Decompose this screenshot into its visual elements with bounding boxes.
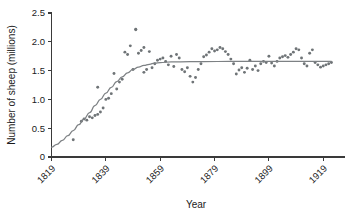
data-point <box>99 111 102 114</box>
data-point <box>167 63 170 66</box>
data-point <box>148 50 151 53</box>
x-tick-label: 1899 <box>252 163 275 186</box>
data-point <box>200 62 203 65</box>
y-axis-title: Number of sheep (millions) <box>6 25 17 145</box>
data-point <box>259 62 262 65</box>
data-point <box>213 50 216 53</box>
data-point <box>284 54 287 57</box>
data-point <box>170 55 173 58</box>
scatter-points <box>72 28 333 141</box>
data-point <box>229 58 232 61</box>
data-point <box>142 46 145 49</box>
chart-canvas: 00.51.01.52.02.5 18191839185918791899191… <box>0 0 353 218</box>
data-point <box>151 66 154 69</box>
y-tick-label: 2.0 <box>32 36 45 47</box>
data-point <box>140 49 143 52</box>
x-axis-title: Year <box>186 199 207 210</box>
data-point <box>219 46 222 49</box>
data-point <box>246 67 249 70</box>
data-point <box>205 54 208 57</box>
data-point <box>186 66 189 69</box>
data-point <box>102 107 105 110</box>
data-point <box>243 71 246 74</box>
data-point <box>278 56 281 59</box>
data-point <box>113 72 116 75</box>
data-point <box>96 113 99 116</box>
data-point <box>311 48 314 51</box>
data-point <box>126 53 129 56</box>
data-point <box>191 81 194 84</box>
data-point <box>270 62 273 65</box>
data-point <box>72 138 75 141</box>
y-tick-label: 1.5 <box>32 65 45 76</box>
data-point <box>115 88 118 91</box>
data-point <box>216 48 219 51</box>
axes <box>52 13 346 157</box>
data-point <box>240 66 243 69</box>
x-tick-label: 1879 <box>198 163 221 186</box>
y-tick-label: 1.0 <box>32 94 45 105</box>
data-point <box>175 53 178 56</box>
data-point <box>110 92 113 95</box>
data-point <box>235 73 238 76</box>
x-tick-label: 1859 <box>143 163 166 186</box>
data-point <box>303 62 306 65</box>
data-point <box>251 68 254 71</box>
data-point <box>194 76 197 79</box>
data-point <box>238 69 241 72</box>
data-point <box>267 55 270 58</box>
data-point <box>308 52 311 55</box>
data-point <box>208 51 211 54</box>
data-point <box>137 52 140 55</box>
data-point <box>202 55 205 58</box>
data-point <box>327 62 330 65</box>
data-point <box>325 63 328 66</box>
data-point <box>232 62 235 65</box>
data-point <box>289 53 292 56</box>
data-point <box>88 115 91 118</box>
data-point <box>286 56 289 59</box>
data-point <box>85 119 88 122</box>
data-point <box>224 50 227 53</box>
data-point <box>172 65 175 68</box>
data-point <box>189 75 192 78</box>
data-point <box>156 59 159 62</box>
data-point <box>180 68 183 71</box>
data-point <box>107 97 110 100</box>
y-tick-label: 0 <box>40 151 45 162</box>
data-point <box>91 116 94 119</box>
data-point <box>281 55 284 58</box>
x-axis-ticks: 181918391859187918991919 <box>35 157 329 185</box>
data-point <box>104 98 107 101</box>
y-axis-ticks: 00.51.01.52.02.5 <box>32 7 52 162</box>
data-point <box>121 78 124 81</box>
data-point <box>221 47 224 50</box>
data-point <box>227 53 230 56</box>
data-point <box>178 56 181 59</box>
data-point <box>145 68 148 71</box>
y-tick-label: 0.5 <box>32 123 45 134</box>
data-point <box>129 44 132 47</box>
data-point <box>197 68 200 71</box>
data-point <box>161 56 164 59</box>
data-point <box>300 56 303 59</box>
data-point <box>210 47 213 50</box>
data-point <box>292 51 295 54</box>
x-tick-label: 1819 <box>35 163 58 186</box>
data-point <box>306 65 309 68</box>
sheep-population-chart: 00.51.01.52.02.5 18191839185918791899191… <box>0 0 353 218</box>
x-tick-label: 1839 <box>89 163 112 186</box>
data-point <box>316 63 319 66</box>
x-tick-label: 1919 <box>306 163 329 186</box>
data-point <box>96 86 99 89</box>
data-point <box>183 70 186 73</box>
data-point <box>159 58 162 61</box>
y-tick-label: 2.5 <box>32 7 45 18</box>
data-point <box>322 65 325 68</box>
data-point <box>134 28 137 31</box>
fit-curve-line <box>52 61 332 147</box>
data-point <box>254 65 257 68</box>
data-point <box>273 65 276 68</box>
data-point <box>257 69 260 72</box>
data-point <box>319 66 322 69</box>
